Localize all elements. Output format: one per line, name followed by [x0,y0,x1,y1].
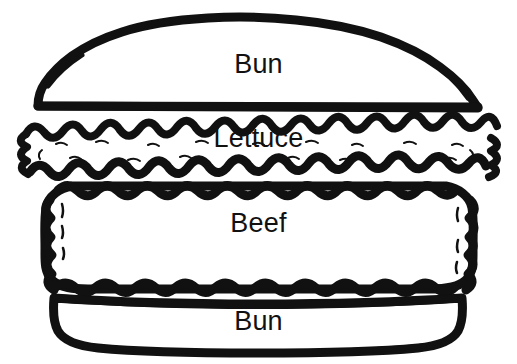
bun-top-base-line [38,106,478,107]
layer-beef-shape [45,186,475,293]
layer-label-beef: Beef [0,210,517,237]
layer-label-lettuce: Lettuce [0,125,517,152]
beef-bottom-bumps [56,283,455,292]
beef-top-bumps [58,186,456,196]
hamburger-diagram: Bun Lettuce Beef Bun [0,0,517,364]
layer-label-bun-bottom: Bun [0,308,517,335]
layer-label-bun-top: Bun [0,51,517,78]
